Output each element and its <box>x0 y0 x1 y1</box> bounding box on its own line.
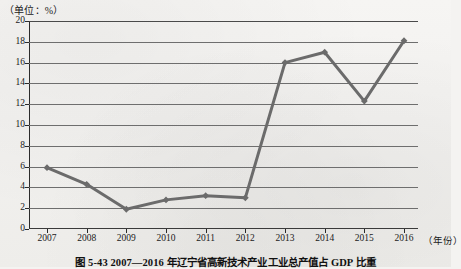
x-tick-label-2009: 2009 <box>117 234 136 244</box>
y-tick-label-2: 2 <box>20 203 25 213</box>
y-tick-label-18: 18 <box>16 37 26 47</box>
x-tick-label-2016: 2016 <box>395 234 414 244</box>
y-tick-label-16: 16 <box>16 58 26 68</box>
x-tick-label-2008: 2008 <box>77 234 96 244</box>
x-tick-label-2007: 2007 <box>38 234 57 244</box>
x-tick-label-2010: 2010 <box>157 234 176 244</box>
y-tick-label-4: 4 <box>20 183 25 193</box>
y-tick-label-0: 0 <box>20 224 25 234</box>
data-point-2013 <box>282 59 289 66</box>
y-tick-label-20: 20 <box>16 16 26 26</box>
y-tick-label-10: 10 <box>16 120 26 130</box>
y-tick-label-6: 6 <box>20 162 25 172</box>
x-tick-label-2013: 2013 <box>276 234 295 244</box>
plot-wrapper: 02468101214161820 2007200820092010201120… <box>29 21 418 229</box>
series-line <box>47 41 404 209</box>
line-series-chart <box>29 21 418 229</box>
y-axis-unit-label: （单位：%） <box>4 2 64 17</box>
figure-caption: 图 5-43 2007—2016 年辽宁省高新技术产业工业总产值占 GDP 比重 <box>0 254 451 269</box>
y-tick-label-14: 14 <box>16 79 26 89</box>
x-tick-label-2015: 2015 <box>355 234 374 244</box>
data-point-2011 <box>202 192 209 199</box>
x-tick-label-2012: 2012 <box>236 234 255 244</box>
x-tick-label-2014: 2014 <box>315 234 334 244</box>
y-tick-label-12: 12 <box>16 99 26 109</box>
data-point-2010 <box>163 196 170 203</box>
data-point-2012 <box>242 194 249 201</box>
y-tick-label-8: 8 <box>20 141 25 151</box>
x-tick-label-2011: 2011 <box>196 234 215 244</box>
y-tick-mark-0 <box>25 229 29 230</box>
x-axis-title: （年份） <box>423 233 461 247</box>
